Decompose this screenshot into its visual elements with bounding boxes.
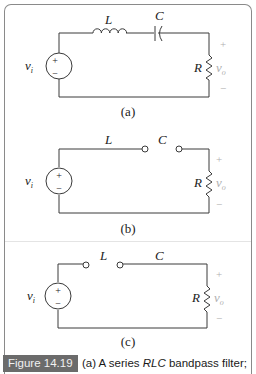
capacitor-label: C bbox=[158, 132, 167, 147]
resistor-icon bbox=[206, 171, 212, 201]
source-label: vi bbox=[25, 173, 33, 190]
output-label: vo bbox=[216, 60, 226, 77]
output-plus: + bbox=[216, 268, 222, 280]
output-label: vo bbox=[216, 175, 226, 192]
inductor-label: L bbox=[99, 248, 107, 263]
voltage-source-icon bbox=[46, 53, 72, 79]
inductor-icon bbox=[93, 29, 127, 33]
resistor-icon bbox=[206, 55, 212, 83]
capacitor-label: C bbox=[155, 8, 164, 23]
output-minus: − bbox=[216, 312, 222, 324]
output-minus: − bbox=[220, 82, 226, 94]
source-minus: − bbox=[52, 68, 58, 79]
open-terminal-icon bbox=[117, 262, 123, 268]
inductor-label: L bbox=[104, 132, 112, 147]
resistor-icon bbox=[204, 286, 210, 316]
capacitor-label: C bbox=[155, 248, 164, 263]
circuit-panel-c: + − vi L C R vo + − (c) bbox=[0, 240, 256, 355]
source-minus: − bbox=[55, 298, 61, 309]
source-plus: + bbox=[52, 55, 58, 66]
figure-caption: Figure 14.19 (a) A series RLC bandpass f… bbox=[0, 355, 256, 372]
source-plus: + bbox=[55, 285, 61, 296]
circuit-panel-b: + − vi L C R vo + − (b) bbox=[0, 120, 256, 240]
source-label: vi bbox=[27, 288, 35, 305]
open-terminal-icon bbox=[176, 146, 182, 152]
source-minus: − bbox=[56, 183, 62, 194]
resistor-label: R bbox=[193, 60, 202, 75]
resistor-label: R bbox=[191, 290, 200, 305]
output-label: vo bbox=[214, 290, 224, 307]
panel-label-c: (c) bbox=[121, 334, 135, 349]
caption-text: (a) A series RLC bandpass filter; bbox=[82, 355, 247, 372]
figure-number-tag: Figure 14.19 bbox=[3, 355, 78, 372]
panel-label-a: (a) bbox=[121, 104, 135, 119]
circuit-panel-a: + − vi L C R vo + − (a) bbox=[0, 0, 256, 120]
inductor-label: L bbox=[104, 12, 112, 27]
output-plus: + bbox=[216, 153, 222, 165]
resistor-label: R bbox=[193, 175, 202, 190]
panel-label-b: (b) bbox=[120, 221, 135, 236]
output-plus: + bbox=[220, 38, 226, 50]
open-terminal-icon bbox=[142, 146, 148, 152]
source-plus: + bbox=[56, 170, 62, 181]
open-terminal-icon bbox=[83, 262, 89, 268]
output-minus: − bbox=[216, 198, 222, 210]
source-label: vi bbox=[25, 58, 33, 75]
